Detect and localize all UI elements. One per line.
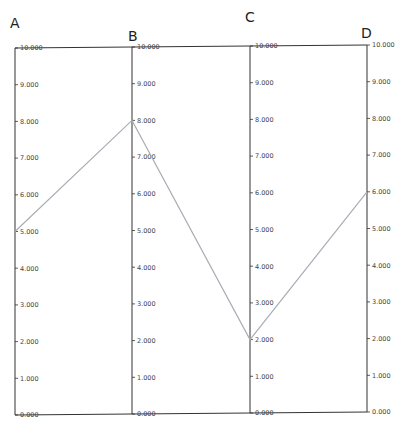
axis-a: A0.0001.0002.0003.0004.0005.0006.0007.00… (10, 15, 43, 419)
tick-label: 10.000 (255, 42, 278, 50)
tick-label: 9.000 (372, 78, 391, 86)
tick-label: 3.000 (20, 301, 39, 309)
tick-label: 7.000 (372, 151, 391, 159)
tick-label: 1.000 (137, 374, 156, 382)
parallel-coordinates-chart: A0.0001.0002.0003.0004.0005.0006.0007.00… (0, 0, 405, 431)
top-border (15, 45, 367, 48)
axis-b: B0.0001.0002.0003.0004.0005.0006.0007.00… (128, 28, 160, 418)
tick-label: 0.000 (372, 408, 391, 416)
axis-c: C0.0001.0002.0003.0004.0005.0006.0007.00… (245, 9, 278, 417)
tick-label: 2.000 (20, 338, 39, 346)
axis-title: A (10, 15, 20, 31)
axes-group: A0.0001.0002.0003.0004.0005.0006.0007.00… (10, 9, 395, 419)
tick-label: 9.000 (20, 81, 39, 89)
tick-label: 4.000 (137, 264, 156, 272)
tick-label: 0.000 (20, 411, 39, 419)
tick-label: 3.000 (255, 299, 274, 307)
tick-label: 4.000 (372, 262, 391, 270)
tick-label: 3.000 (137, 300, 156, 308)
tick-label: 8.000 (137, 117, 156, 125)
axis-title: B (128, 28, 138, 44)
tick-label: 8.000 (255, 116, 274, 124)
tick-label: 6.000 (372, 188, 391, 196)
tick-label: 8.000 (20, 118, 39, 126)
tick-label: 0.000 (255, 409, 274, 417)
tick-label: 2.000 (372, 335, 391, 343)
tick-label: 10.000 (137, 43, 160, 51)
tick-label: 2.000 (137, 337, 156, 345)
tick-label: 5.000 (20, 228, 39, 236)
tick-label: 4.000 (20, 265, 39, 273)
bottom-border (15, 412, 367, 415)
tick-label: 9.000 (255, 79, 274, 87)
tick-label: 10.000 (20, 44, 43, 52)
axis-title: C (245, 9, 255, 25)
data-lines (15, 120, 367, 339)
tick-label: 1.000 (372, 372, 391, 380)
tick-label: 0.000 (137, 410, 156, 418)
tick-label: 10.000 (372, 41, 395, 49)
tick-label: 8.000 (372, 115, 391, 123)
tick-label: 5.000 (255, 226, 274, 234)
tick-label: 1.000 (20, 375, 39, 383)
tick-label: 2.000 (255, 336, 274, 344)
tick-label: 5.000 (137, 227, 156, 235)
tick-label: 5.000 (372, 225, 391, 233)
tick-label: 9.000 (137, 80, 156, 88)
data-line (15, 120, 367, 339)
tick-label: 6.000 (20, 191, 39, 199)
tick-label: 6.000 (137, 190, 156, 198)
axis-d: D0.0001.0002.0003.0004.0005.0006.0007.00… (361, 25, 395, 416)
tick-label: 7.000 (255, 152, 274, 160)
axis-title: D (361, 25, 372, 41)
tick-label: 1.000 (255, 373, 274, 381)
tick-label: 3.000 (372, 298, 391, 306)
tick-label: 7.000 (20, 154, 39, 162)
tick-label: 4.000 (255, 263, 274, 271)
tick-label: 6.000 (255, 189, 274, 197)
